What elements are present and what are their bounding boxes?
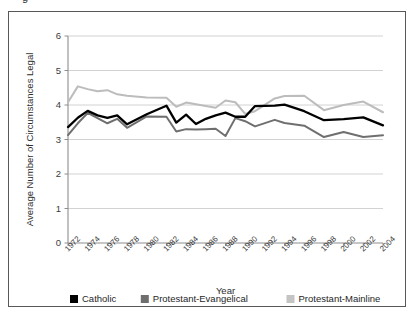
y-tick-label: 4 bbox=[56, 99, 61, 110]
chart-legend: CatholicProtestant-EvangelicalProtestant… bbox=[70, 293, 380, 304]
x-tick-label: 1990 bbox=[240, 234, 259, 253]
x-tick-label: 1976 bbox=[102, 234, 121, 253]
x-tick-labels-group: 1972197419761978198019821984198619881990… bbox=[63, 234, 397, 253]
x-tick-label: 1978 bbox=[122, 234, 141, 253]
gridlines-group bbox=[68, 36, 383, 243]
y-tick-labels-group: 0123456 bbox=[56, 30, 68, 248]
legend-label: Catholic bbox=[82, 293, 117, 304]
y-tick-label: 0 bbox=[56, 237, 61, 248]
legend-swatch bbox=[287, 295, 295, 303]
line-chart: 0123456 19721974197619781980198219841986… bbox=[0, 0, 414, 318]
y-tick-label: 2 bbox=[56, 168, 61, 179]
y-axis-title: Average Number of Circumstances Legal bbox=[24, 53, 35, 227]
x-tick-label: 2002 bbox=[358, 234, 377, 253]
x-tick-label: 1994 bbox=[280, 234, 299, 253]
x-tick-label: 1982 bbox=[161, 234, 180, 253]
x-tick-label: 1986 bbox=[201, 234, 220, 253]
legend-swatch bbox=[141, 295, 149, 303]
x-tick-label: 2004 bbox=[378, 234, 397, 253]
legend-label: Protestant-Mainline bbox=[299, 293, 381, 304]
figure-container: g 0123456 197219741976197819801982198419… bbox=[0, 0, 414, 318]
y-tick-label: 6 bbox=[56, 30, 61, 41]
x-tick-label: 1984 bbox=[181, 234, 200, 253]
x-tick-label: 1996 bbox=[299, 234, 318, 253]
series-lines-group bbox=[68, 86, 383, 137]
y-tick-label: 1 bbox=[56, 203, 61, 214]
series-line-protestant-mainline bbox=[68, 86, 383, 114]
y-tick-label: 5 bbox=[56, 65, 61, 76]
y-tick-label: 3 bbox=[56, 134, 61, 145]
legend-swatch bbox=[70, 295, 78, 303]
x-tick-label: 1992 bbox=[260, 234, 279, 253]
x-tick-label: 1988 bbox=[221, 234, 240, 253]
x-tick-label: 2000 bbox=[339, 234, 358, 253]
x-tick-label: 1974 bbox=[83, 234, 102, 253]
x-tick-label: 1998 bbox=[319, 234, 338, 253]
x-tick-label: 1980 bbox=[142, 234, 161, 253]
x-tick-label: 1972 bbox=[63, 234, 82, 253]
legend-label: Protestant-Evangelical bbox=[153, 293, 248, 304]
